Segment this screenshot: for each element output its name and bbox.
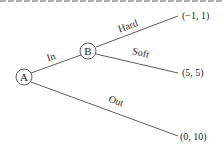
edge-in	[31, 55, 81, 73]
node-b-label: B	[84, 45, 91, 57]
edge-label-in: In	[45, 50, 56, 63]
edge-label-soft: Soft	[131, 45, 150, 60]
payoff-hard: (−1, 1)	[182, 10, 209, 22]
node-b: B	[80, 43, 96, 59]
edge-label-out: Out	[107, 93, 125, 109]
edge-hard	[96, 16, 178, 47]
payoff-soft: (5, 5)	[182, 67, 204, 79]
game-tree: A B In Hard Soft Out (−1, 1) (5, 5) (0, …	[0, 0, 224, 152]
payoff-out: (0, 10)	[180, 131, 207, 143]
edge-out	[31, 82, 178, 136]
node-a-label: A	[20, 71, 28, 83]
node-a: A	[16, 69, 32, 85]
